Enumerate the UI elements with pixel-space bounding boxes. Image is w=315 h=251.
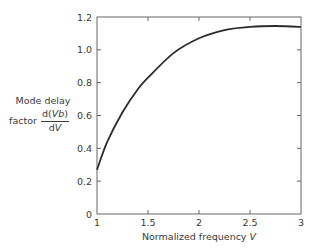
y-tick-label: 0.4 <box>77 143 92 154</box>
y-tick-label: 0.8 <box>77 77 92 88</box>
x-tick-label: 1.5 <box>140 217 155 228</box>
y-tick-label: 0.2 <box>77 176 92 187</box>
axis-ticks <box>97 17 301 214</box>
x-axis-label: Normalized frequency V <box>142 231 258 242</box>
plot-frame <box>97 17 301 214</box>
mode-delay-curve <box>97 26 301 170</box>
x-tick-label: 2.5 <box>242 217 257 228</box>
y-axis-label: Mode delay factor d(Vb) dV <box>0 96 78 134</box>
y-axis-label-prefix: factor <box>9 116 37 127</box>
y-axis-label-line1: Mode delay <box>0 96 78 107</box>
y-tick-label: 0 <box>86 209 92 220</box>
y-axis-fraction: d(Vb) dV <box>41 109 69 134</box>
x-tick-label: 1 <box>94 217 100 228</box>
x-tick-label: 2 <box>196 217 202 228</box>
y-tick-label: 1.2 <box>77 12 92 23</box>
y-tick-label: 0.6 <box>77 110 92 121</box>
x-tick-labels: 11.522.53 <box>94 217 304 228</box>
x-tick-label: 3 <box>298 217 304 228</box>
y-tick-labels: 00.20.40.60.81.01.2 <box>77 12 92 220</box>
y-tick-label: 1.0 <box>77 44 92 55</box>
